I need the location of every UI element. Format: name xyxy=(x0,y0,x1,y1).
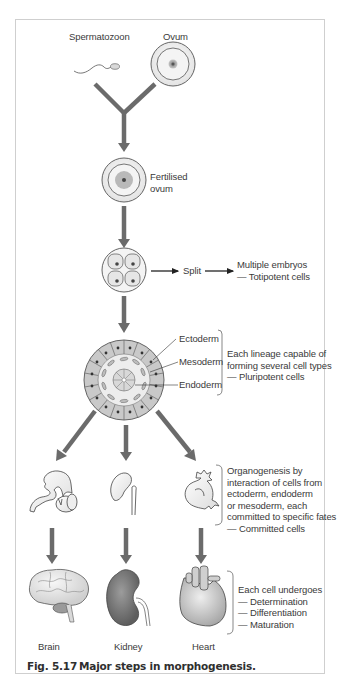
spermatozoon-icon xyxy=(74,64,120,73)
label-endoderm: Endoderm xyxy=(179,379,222,391)
label-heart: Heart xyxy=(192,641,215,653)
figure-number: Fig. 5.17 xyxy=(27,660,79,672)
germ-layer-embryo-icon xyxy=(84,340,164,420)
four-cell-embryo-icon xyxy=(102,248,146,292)
label-organogenesis: Organogenesis by interaction of cells fr… xyxy=(227,465,336,534)
bracket-organs xyxy=(227,571,233,634)
label-pluripotent: Each lineage capable of forming several … xyxy=(227,348,332,383)
label-ectoderm: Ectoderm xyxy=(179,333,219,345)
heart-icon xyxy=(180,566,226,626)
fertilisation-arrow xyxy=(95,84,155,152)
label-fertilised-ovum: Fertilised ovum xyxy=(150,171,188,194)
ovum-icon xyxy=(151,42,195,86)
heart-primordium-icon xyxy=(185,470,219,509)
label-split: Split xyxy=(183,265,201,277)
fertilised-ovum-icon xyxy=(102,158,146,202)
label-spermatozoon: Spermatozoon xyxy=(69,31,130,43)
label-totipotent: Multiple embryos — Totipotent cells xyxy=(237,259,310,282)
label-cell-fates: Each cell undergoes — Determination — Di… xyxy=(238,584,322,630)
cleavage-arrow xyxy=(118,206,130,248)
brain-icon xyxy=(29,569,88,622)
label-ovum: Ovum xyxy=(163,31,188,43)
figure-title: Major steps in morphogenesis. xyxy=(79,660,256,672)
label-kidney: Kidney xyxy=(114,641,142,653)
kidney-primordium-icon xyxy=(111,473,136,515)
kidney-icon xyxy=(107,570,150,626)
label-mesoderm: Mesoderm xyxy=(179,356,223,368)
brain-primordium-icon xyxy=(30,471,77,512)
gastrulation-arrow xyxy=(118,296,130,333)
label-brain: Brain xyxy=(38,641,60,653)
bracket-organogenesis xyxy=(215,465,222,525)
figure-caption: Fig. 5.17Major steps in morphogenesis. xyxy=(27,660,256,672)
maturation-arrows xyxy=(46,528,207,564)
